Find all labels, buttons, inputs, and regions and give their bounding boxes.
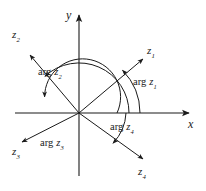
arg-label-z2: argz2 — [38, 67, 62, 80]
x-axis-label: x — [188, 118, 193, 130]
vector-z4 — [79, 113, 143, 159]
vector-label-z4: z4 — [138, 166, 146, 180]
vector-label-z3: z3 — [12, 146, 20, 160]
complex-plane-figure: y x z1 z2 z3 z4 argz1 argz2 argz3 argz4 — [0, 0, 206, 191]
arg-label-z3: argz3 — [40, 138, 64, 151]
y-axis-label: y — [66, 9, 71, 21]
vector-label-z2: z2 — [12, 29, 20, 43]
arg-label-z4: argz4 — [110, 122, 134, 135]
arg-label-z1: argz1 — [133, 77, 157, 90]
vector-label-z1: z1 — [147, 45, 155, 59]
figure-canvas — [0, 0, 206, 191]
